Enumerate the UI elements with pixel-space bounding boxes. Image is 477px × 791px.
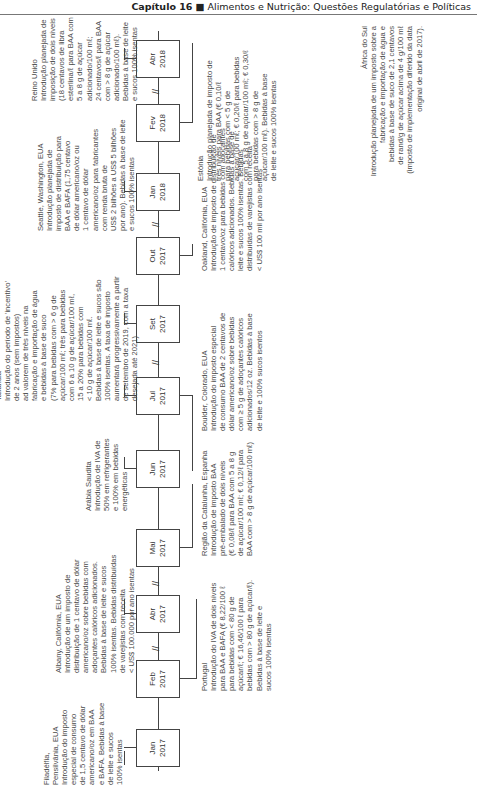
connector <box>192 484 193 548</box>
note-estonia: Estônia Introdução planejada de imposto … <box>196 50 278 181</box>
date-label: Out 2017 <box>148 247 168 265</box>
connector <box>180 122 192 123</box>
timeline-figure: Jan 2017 Feb 2017 Abr 2017 Mai 2017 Jun … <box>0 16 477 791</box>
timeline-box-jan-2017: Jan 2017 <box>136 729 180 767</box>
note-reino-unido: Reino Unido Introdução planejada de impo… <box>30 17 139 101</box>
header-rule <box>0 14 477 15</box>
date-label: Jun 2017 <box>148 460 168 478</box>
timeline-box-jan-2018: Jan 2018 <box>136 173 180 211</box>
timeline-box-abr-2018: Abr 2018 <box>136 40 180 78</box>
note-seattle: Seattle, Washington, EUA Introdução plan… <box>36 120 136 231</box>
break-mark: // <box>151 222 161 227</box>
note-arabia-saudita: Arábia Saudita Introdução de IVA de 50% … <box>84 438 129 511</box>
header-separator: ■ <box>195 1 204 12</box>
break-mark: // <box>151 89 161 94</box>
connector <box>124 747 136 748</box>
note-albany: Albany, Califórnia, EUA Introdução de um… <box>54 555 136 673</box>
note-portugal: Portugal Introdução do IVA de dois nívei… <box>200 580 273 691</box>
connector <box>180 395 192 396</box>
date-label: Jan 2018 <box>148 183 168 201</box>
timeline-box-set-2017: Set 2017 <box>136 305 180 343</box>
break-mark: // <box>151 581 161 586</box>
date-label: Jul 2017 <box>148 387 168 405</box>
connector <box>192 43 193 123</box>
timeline-box-jul-2017: Jul 2017 <box>136 377 180 415</box>
break-mark: // <box>151 646 161 651</box>
date-label: Mai 2017 <box>148 539 168 557</box>
chapter-number: Capítulo 16 <box>131 1 192 12</box>
timeline-box-mai-2017: Mai 2017 <box>136 529 180 567</box>
connector <box>192 244 193 256</box>
page-header: Capítulo 16 ■ Alimentos e Nutrição: Ques… <box>0 0 477 16</box>
break-mark: // <box>151 360 161 365</box>
note-catalunha: Região da Catalunha, Espanha Introdução … <box>200 442 255 556</box>
chapter-title: Alimentos e Nutrição: Questões Regulatór… <box>208 1 472 12</box>
connector <box>196 599 197 679</box>
note-tailandia: Tailândia Introdução do período de 'ince… <box>0 251 140 401</box>
connector <box>180 678 196 679</box>
timeline-box-jun-2017: Jun 2017 <box>136 450 180 488</box>
connector <box>124 751 125 765</box>
date-label: Jan 2017 <box>148 739 168 757</box>
date-label: Fev 2018 <box>148 114 168 132</box>
connector <box>192 395 193 471</box>
connector <box>180 255 192 256</box>
date-label: Abr 2017 <box>148 605 168 623</box>
date-label: Abr 2018 <box>148 50 168 68</box>
note-africa-do-sul: África do Sul Introdução planejada de um… <box>360 26 424 201</box>
connector <box>180 547 192 548</box>
note-filadelfia: Filadélfia, Pensilvânia, EUA Introdução … <box>42 703 124 785</box>
timeline-box-abr-2017: Abr 2017 <box>136 595 180 633</box>
timeline-box-fev-2018: Fev 2018 <box>136 104 180 142</box>
date-label: Feb 2017 <box>148 670 168 688</box>
timeline-box-feb-2017: Feb 2017 <box>136 660 180 698</box>
note-boulder: Boulder, Colorado, EUA Introdução do imp… <box>200 313 264 431</box>
timeline-box-out-2017: Out 2017 <box>136 237 180 275</box>
chapter-header: Capítulo 16 ■ Alimentos e Nutrição: Ques… <box>131 1 471 12</box>
date-label: Set 2017 <box>148 315 168 333</box>
